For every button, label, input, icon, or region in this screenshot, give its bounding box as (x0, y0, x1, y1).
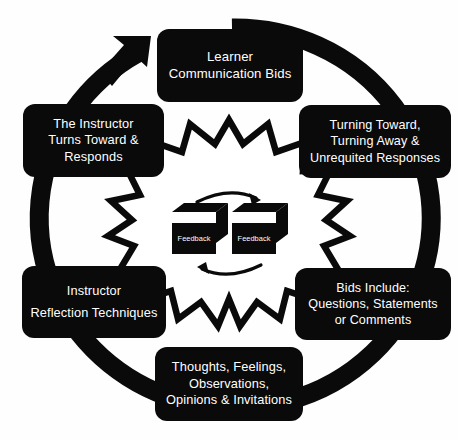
node-thoughts-feelings[interactable]: Thoughts, Feelings, Observations, Opinio… (155, 347, 303, 421)
node-turning-toward-away[interactable]: Turning Toward, Turning Away & Unrequite… (299, 105, 451, 178)
node-bids-include[interactable]: Bids Include: Questions, Statements or C… (295, 268, 451, 340)
node-line: or Comments (301, 312, 445, 328)
node-line: Learner (163, 49, 297, 66)
node-line: Unrequited Responses (305, 150, 445, 166)
node-line: Communication Bids (163, 66, 297, 83)
feedback-cube-left: Feedback (172, 214, 219, 254)
feedback-cubes: Feedback Feedback (172, 203, 286, 265)
feedback-cube-right-label: Feedback (238, 234, 271, 243)
node-line: Thoughts, Feelings, (161, 359, 297, 375)
node-line: Bids Include: (301, 280, 445, 296)
node-the-instructor-turns-toward[interactable]: The Instructor Turns Toward & Responds (23, 104, 164, 177)
node-line: Turns Toward & (29, 132, 158, 148)
node-instructor-reflection-techniques[interactable]: Instructor Reflection Techniques (22, 266, 166, 338)
feedback-cube-left-face: Feedback (172, 223, 216, 254)
feedback-cube-right-face: Feedback (232, 223, 276, 254)
node-line: Observations, (161, 376, 297, 392)
feedback-cube-left-label: Feedback (178, 234, 211, 243)
node-line: Responds (29, 149, 158, 165)
feedback-cube-right: Feedback (232, 214, 279, 254)
node-line: Turning Toward, (305, 117, 445, 133)
node-line: Opinions & Invitations (161, 392, 297, 408)
node-line: Turning Away & (305, 133, 445, 149)
node-line: Reflection Techniques (28, 305, 160, 321)
node-line: The Instructor (29, 116, 158, 132)
node-learner-communication-bids[interactable]: Learner Communication Bids (157, 29, 303, 102)
node-line: Questions, Statements (301, 296, 445, 312)
node-line: Instructor (28, 283, 160, 299)
